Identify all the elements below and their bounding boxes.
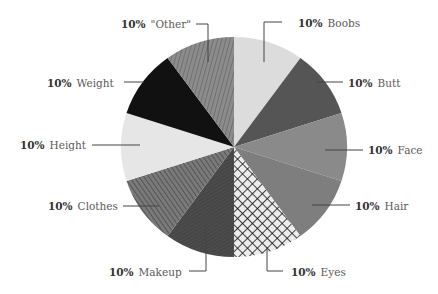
label-name: Height xyxy=(50,139,86,151)
label-eyes: 10%Eyes xyxy=(291,265,346,279)
label-makeup: 10%Makeup xyxy=(109,265,182,279)
label-pct: 10% xyxy=(109,266,134,278)
label-weight: 10%Weight xyxy=(47,76,114,90)
label-name: Eyes xyxy=(321,266,346,278)
label-other: 10%"Other" xyxy=(121,17,191,31)
label-name: Makeup xyxy=(139,266,182,278)
label-pct: 10% xyxy=(291,266,316,278)
label-butt: 10%Butt xyxy=(348,76,401,90)
label-name: Weight xyxy=(77,77,114,89)
label-pct: 10% xyxy=(20,139,45,151)
label-pct: 10% xyxy=(355,200,380,212)
label-name: Face xyxy=(398,144,423,156)
label-name: Clothes xyxy=(78,200,118,212)
label-pct: 10% xyxy=(121,18,146,30)
label-boobs: 10%Boobs xyxy=(298,16,360,30)
label-name: Butt xyxy=(378,77,401,89)
label-height: 10%Height xyxy=(20,138,86,152)
label-clothes: 10%Clothes xyxy=(48,199,118,213)
label-name: Boobs xyxy=(328,17,360,29)
label-name: Hair xyxy=(385,200,409,212)
label-pct: 10% xyxy=(298,17,323,29)
pie-slices xyxy=(121,37,347,257)
label-pct: 10% xyxy=(368,144,393,156)
label-name: "Other" xyxy=(151,18,191,30)
label-pct: 10% xyxy=(47,77,72,89)
label-hair: 10%Hair xyxy=(355,199,408,213)
label-pct: 10% xyxy=(48,200,73,212)
label-face: 10%Face xyxy=(368,143,423,157)
label-pct: 10% xyxy=(348,77,373,89)
